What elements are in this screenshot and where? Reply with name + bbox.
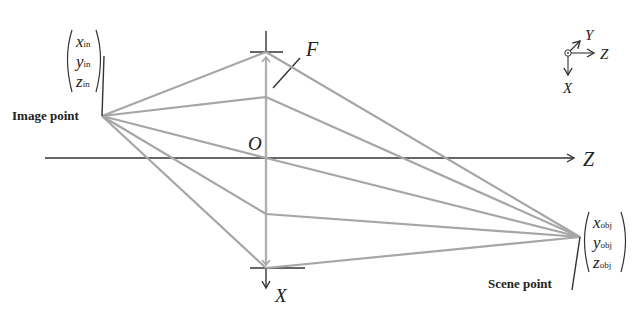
image-point-vector: xin yin zin <box>68 30 105 116</box>
svg-text:xobj: xobj <box>592 213 612 232</box>
optical-axis-label: Z <box>583 148 595 170</box>
scene-point-label: Scene point <box>488 276 553 291</box>
frame-z-label: Z <box>600 46 609 62</box>
lens-ray-diagram: Z X F O xin yin zin Imag <box>0 0 642 320</box>
svg-text:yobj: yobj <box>591 233 612 252</box>
focal-pointer <box>273 58 300 88</box>
focal-label: F <box>305 38 319 60</box>
scene-point-vector: xobj yobj zobj <box>572 212 626 290</box>
svg-text:zin: zin <box>75 72 90 91</box>
lens-axis-label: X <box>274 285 288 306</box>
frame-x-label: X <box>562 80 573 96</box>
svg-text:xin: xin <box>75 32 91 51</box>
rays-scene-side <box>266 52 580 268</box>
svg-text:zobj: zobj <box>592 253 611 272</box>
frame-y-label: Y <box>585 27 595 43</box>
image-point-label: Image point <box>12 108 79 123</box>
rays-image-side <box>102 52 266 268</box>
origin-label: O <box>248 133 262 154</box>
svg-text:yin: yin <box>74 52 91 71</box>
coordinate-frame-icon <box>565 41 594 75</box>
